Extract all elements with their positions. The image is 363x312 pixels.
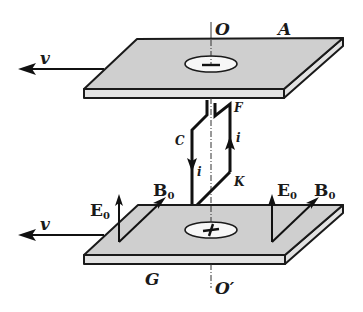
label-O: O xyxy=(215,19,230,39)
label-G: G xyxy=(145,269,160,289)
label-B0-right: B0 xyxy=(314,180,335,201)
label-E0-right: E0 xyxy=(277,180,297,201)
bottom-plate-g xyxy=(84,205,343,264)
capacitor-loop-diagram: C D K F i i O A v E0 B0 xyxy=(0,0,363,312)
label-E0-left: E0 xyxy=(90,200,110,221)
label-B0-left: B0 xyxy=(153,180,174,201)
label-i-right: i xyxy=(236,131,241,145)
label-C: C xyxy=(175,134,185,148)
velocity-arrow-top xyxy=(18,63,104,75)
label-i-left: i xyxy=(197,165,202,179)
label-O-prime: O′ xyxy=(215,278,235,298)
label-v-bottom: v xyxy=(40,214,51,234)
label-v-top: v xyxy=(40,48,51,68)
label-K: K xyxy=(233,175,245,189)
label-F: F xyxy=(233,101,244,115)
top-plate-a xyxy=(84,38,343,98)
label-A: A xyxy=(276,19,291,39)
velocity-arrow-bottom xyxy=(18,229,104,241)
